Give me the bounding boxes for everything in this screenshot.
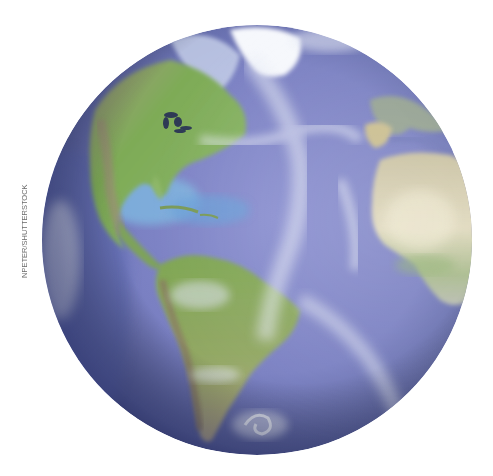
globe-surface	[10, 25, 480, 455]
photo-credit-text: NPETER/SHUTTERSTOCK	[20, 184, 29, 278]
earth-globe	[0, 0, 493, 476]
photo-credit: NPETER/SHUTTERSTOCK	[20, 278, 30, 288]
